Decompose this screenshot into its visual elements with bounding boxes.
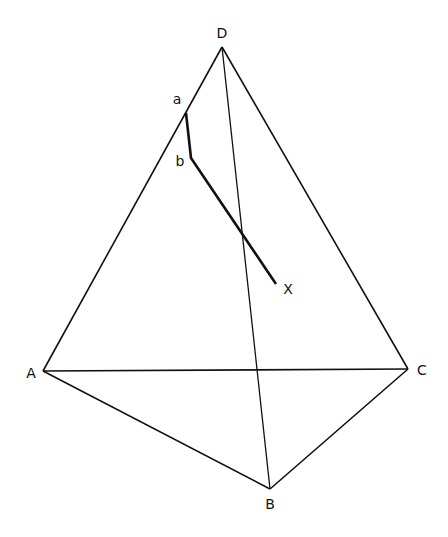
label-D: D	[217, 25, 228, 41]
label-C: C	[417, 362, 427, 378]
tetrahedron-diagram: D A C B a b X	[0, 0, 448, 537]
edge-AB	[43, 371, 270, 489]
label-b: b	[176, 153, 185, 169]
diagram-svg: D A C B a b X	[0, 0, 448, 537]
edge-AD	[43, 47, 222, 371]
path-a-b-X	[186, 113, 276, 284]
label-A: A	[26, 365, 36, 381]
label-a: a	[173, 91, 182, 107]
edge-DB	[222, 47, 270, 489]
label-B: B	[265, 496, 275, 512]
edge-AC	[43, 369, 408, 371]
edge-BC	[270, 369, 408, 489]
edge-DC	[222, 47, 408, 369]
label-X: X	[283, 281, 293, 297]
